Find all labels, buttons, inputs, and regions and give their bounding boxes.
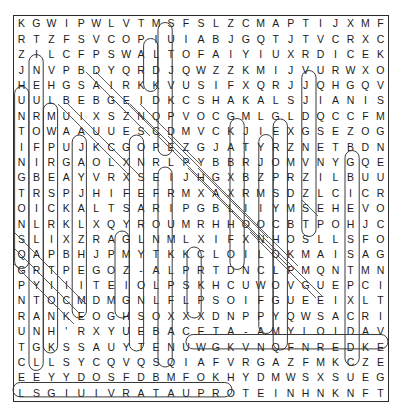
grid-cell[interactable]: I [14,139,29,154]
grid-cell[interactable]: V [178,108,193,123]
grid-cell[interactable]: X [89,324,104,339]
grid-cell[interactable]: P [59,185,74,200]
grid-cell[interactable]: D [149,93,164,108]
grid-cell[interactable]: I [59,278,74,293]
grid-cell[interactable]: Q [268,339,283,354]
grid-cell[interactable]: J [74,185,89,200]
grid-cell[interactable]: E [373,339,388,354]
grid-cell[interactable]: C [223,278,238,293]
grid-cell[interactable]: U [178,385,193,401]
grid-cell[interactable]: N [343,93,358,108]
grid-cell[interactable]: D [74,370,89,385]
grid-cell[interactable]: R [104,170,119,185]
grid-cell[interactable]: B [208,155,223,170]
grid-cell[interactable]: K [59,201,74,216]
grid-cell[interactable]: G [14,262,29,277]
grid-cell[interactable]: K [328,385,343,401]
grid-cell[interactable]: P [283,16,298,31]
grid-cell[interactable]: A [104,231,119,246]
grid-cell[interactable]: P [149,139,164,154]
grid-cell[interactable]: T [89,278,104,293]
grid-cell[interactable]: G [44,385,59,401]
grid-cell[interactable]: Q [283,308,298,323]
grid-cell[interactable]: G [268,293,283,308]
grid-cell[interactable]: U [178,339,193,354]
grid-cell[interactable]: O [149,308,164,323]
grid-cell[interactable]: D [343,339,358,354]
grid-cell[interactable]: Z [358,355,373,370]
grid-cell[interactable]: C [104,31,119,46]
grid-cell[interactable]: P [178,155,193,170]
grid-cell[interactable]: A [268,355,283,370]
grid-cell[interactable]: T [373,293,388,308]
grid-cell[interactable]: O [134,139,149,154]
grid-cell[interactable]: E [134,185,149,200]
grid-cell[interactable]: I [164,201,179,216]
grid-cell[interactable]: D [134,370,149,385]
grid-cell[interactable]: X [119,170,134,185]
grid-cell[interactable]: G [119,139,134,154]
grid-cell[interactable]: J [89,247,104,262]
grid-cell[interactable]: L [268,262,283,277]
grid-cell[interactable]: O [268,278,283,293]
grid-cell[interactable]: R [164,185,179,200]
grid-cell[interactable]: U [164,216,179,231]
grid-cell[interactable]: A [193,355,208,370]
grid-cell[interactable]: V [298,62,313,77]
grid-cell[interactable]: L [178,231,193,246]
grid-cell[interactable]: X [89,216,104,231]
grid-cell[interactable]: J [208,139,223,154]
grid-cell[interactable]: I [328,293,343,308]
grid-cell[interactable]: Z [253,170,268,185]
grid-cell[interactable]: I [89,385,104,401]
grid-cell[interactable]: K [328,355,343,370]
grid-cell[interactable]: A [223,93,238,108]
grid-cell[interactable]: Q [253,31,268,46]
grid-cell[interactable]: L [283,108,298,123]
grid-cell[interactable]: N [313,385,328,401]
grid-cell[interactable]: B [238,170,253,185]
grid-cell[interactable]: F [29,139,44,154]
grid-cell[interactable]: B [149,324,164,339]
grid-cell[interactable]: Z [298,170,313,185]
grid-cell[interactable]: D [208,308,223,323]
grid-cell[interactable]: U [178,78,193,93]
grid-cell[interactable]: M [178,216,193,231]
grid-cell[interactable]: E [74,93,89,108]
grid-cell[interactable]: L [328,231,343,246]
grid-cell[interactable]: M [74,293,89,308]
grid-cell[interactable]: O [253,216,268,231]
grid-cell[interactable]: A [223,324,238,339]
grid-cell[interactable]: D [298,108,313,123]
grid-cell[interactable]: W [119,47,134,62]
grid-cell[interactable]: K [238,62,253,77]
grid-cell[interactable]: N [29,324,44,339]
grid-cell[interactable]: E [29,370,44,385]
grid-cell[interactable]: S [178,278,193,293]
grid-cell[interactable]: O [89,155,104,170]
grid-cell[interactable]: S [29,385,44,401]
grid-cell[interactable]: D [223,262,238,277]
grid-cell[interactable]: N [238,262,253,277]
grid-cell[interactable]: H [193,170,208,185]
grid-cell[interactable]: M [119,247,134,262]
grid-cell[interactable]: H [343,216,358,231]
grid-cell[interactable]: O [223,293,238,308]
grid-cell[interactable]: C [59,47,74,62]
grid-cell[interactable]: Q [313,108,328,123]
grid-cell[interactable]: L [29,216,44,231]
grid-cell[interactable]: R [343,31,358,46]
grid-cell[interactable]: A [29,247,44,262]
grid-cell[interactable]: B [343,139,358,154]
grid-cell[interactable]: X [223,170,238,185]
grid-cell[interactable]: I [268,385,283,401]
grid-cell[interactable]: A [164,385,179,401]
grid-cell[interactable]: C [208,124,223,139]
grid-cell[interactable]: X [283,47,298,62]
grid-cell[interactable]: V [373,78,388,93]
grid-cell[interactable]: D [89,293,104,308]
grid-cell[interactable]: B [223,155,238,170]
grid-cell[interactable]: E [343,201,358,216]
grid-cell[interactable]: O [89,308,104,323]
grid-cell[interactable]: P [44,247,59,262]
